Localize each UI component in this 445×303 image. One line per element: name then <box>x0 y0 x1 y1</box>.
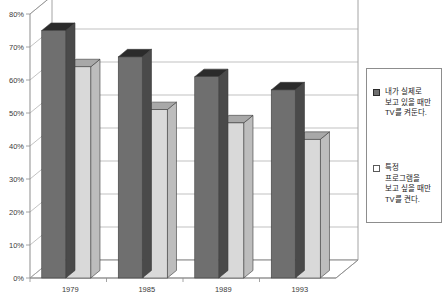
bar-side-face <box>244 115 253 278</box>
gridline-depth-80 <box>30 0 52 14</box>
bar-side-face <box>219 69 228 278</box>
bar-front-face <box>118 57 142 278</box>
ytick-label-70: 70% <box>9 43 24 52</box>
ytick-label-50: 50% <box>9 109 24 118</box>
bar-chart: 0%10%20%30%40%50%60%70%80%19791985198919… <box>0 0 445 303</box>
ytick-label-10: 10% <box>9 241 24 250</box>
bar-side-face <box>66 23 75 278</box>
legend-item-1[interactable]: 특정 프로그램을 보고 싶을 때만 TV를 켠다. <box>373 163 441 205</box>
legend-swatch-icon-dark <box>373 89 380 96</box>
xtick-label-1979: 1979 <box>62 285 79 294</box>
ytick-label-30: 30% <box>9 175 24 184</box>
bar-side-face <box>142 49 151 278</box>
bar-side-face <box>320 132 329 278</box>
legend-label-1: 특정 프로그램을 보고 싶을 때만 TV를 켠다. <box>385 163 431 205</box>
ytick-label-0: 0% <box>13 274 24 283</box>
ytick-label-20: 20% <box>9 208 24 217</box>
xtick-label-1993: 1993 <box>291 285 308 294</box>
bar-1985-series-0 <box>118 49 151 278</box>
bar-1989-series-0 <box>195 69 228 278</box>
xtick-label-1989: 1989 <box>215 285 232 294</box>
bar-front-face <box>42 31 66 279</box>
xtick-label-1985: 1985 <box>138 285 155 294</box>
ytick-label-60: 60% <box>9 76 24 85</box>
bar-side-face <box>295 82 304 278</box>
legend-swatch-icon-light <box>373 165 380 172</box>
box-edge-top-left <box>30 0 52 14</box>
bar-side-face <box>167 102 176 278</box>
ytick-label-40: 40% <box>9 142 24 151</box>
bar-front-face <box>271 90 295 278</box>
ytick-label-80: 80% <box>9 10 24 19</box>
chart-legend: 내가 실제로 보고 있을 때만 TV를 켜둔다. 특정 프로그램을 보고 싶을 … <box>366 68 442 223</box>
bar-1979-series-0 <box>42 23 75 278</box>
bar-side-face <box>91 59 100 278</box>
legend-item-0[interactable]: 내가 실제로 보고 있을 때만 TV를 켜둔다. <box>373 87 441 119</box>
legend-label-0: 내가 실제로 보고 있을 때만 TV를 켜둔다. <box>385 87 431 119</box>
bar-1993-series-0 <box>271 82 304 278</box>
bar-front-face <box>195 77 219 278</box>
